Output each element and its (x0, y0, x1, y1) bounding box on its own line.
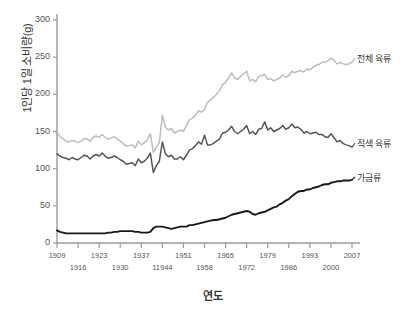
series-line-1 (57, 122, 352, 173)
series-leader-2 (352, 177, 355, 180)
series-line-2 (57, 180, 352, 234)
series-line-0 (57, 58, 352, 152)
plot-area (0, 0, 403, 310)
series-leader-0 (352, 58, 355, 62)
series-leader-1 (352, 143, 355, 147)
chart-container: 1인당 1일 소비량(g) 연도 050100150200250300 1909… (0, 0, 403, 310)
